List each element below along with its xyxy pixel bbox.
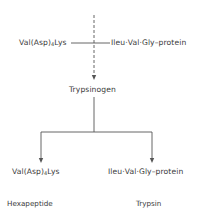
fragment-suffix: Lys <box>47 167 59 176</box>
trypsin-caption: Trypsin <box>136 200 161 207</box>
product-right-fragment: Ileu·Val·Gly–protein <box>108 168 183 176</box>
fragment-prefix: Val(Asp) <box>12 167 44 176</box>
cleavage-arrowhead-icon <box>92 75 96 80</box>
top-left-fragment: Val(Asp)4Lys <box>19 39 67 47</box>
trypsinogen-label: Trypsinogen <box>69 86 116 94</box>
fragment-suffix: Lys <box>54 38 66 47</box>
left-arrowhead-icon <box>39 158 43 163</box>
fragment-prefix: Val(Asp) <box>19 38 51 47</box>
product-left-fragment: Val(Asp)4Lys <box>12 168 60 176</box>
trypsinogen-activation-diagram: Val(Asp)4Lys Ileu·Val·Gly–protein Trypsi… <box>0 0 207 214</box>
top-right-fragment: Ileu·Val·Gly–protein <box>111 39 186 47</box>
connector-lines <box>0 0 207 214</box>
right-arrowhead-icon <box>150 158 154 163</box>
hexapeptide-caption: Hexapeptide <box>7 200 53 207</box>
